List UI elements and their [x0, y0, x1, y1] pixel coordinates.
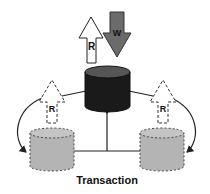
primary-database — [85, 66, 130, 112]
link-left — [62, 91, 86, 96]
write-arrow-down: W — [103, 12, 131, 57]
replica-read-label-right: R — [160, 104, 167, 114]
write-arrow-label: W — [113, 28, 122, 38]
caption-transaction: Transaction — [76, 174, 138, 186]
replica-read-arrow-left: R — [39, 80, 65, 123]
replica-read-arrow-right: R — [150, 80, 176, 123]
replica-read-label-left: R — [49, 104, 56, 114]
replica-database-left — [30, 128, 74, 171]
replication-diagram: R W R R Transaction — [0, 0, 210, 194]
read-arrow-up: R — [79, 17, 103, 63]
link-right — [129, 91, 153, 96]
read-arrow-label: R — [88, 41, 96, 52]
replica-database-right — [140, 128, 184, 171]
